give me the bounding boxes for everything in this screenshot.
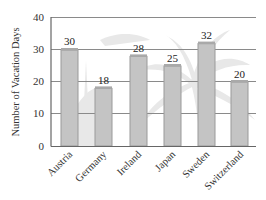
value-label-switzerland: 20 [234, 68, 246, 80]
x-tick-austria: Austria [45, 148, 75, 178]
x-tick-japan: Japan [153, 148, 178, 173]
x-tick-germany: Germany [73, 148, 109, 184]
bar-switzerland [231, 82, 248, 146]
bar-sweden [198, 44, 215, 146]
palm-tree-background-icon [60, 30, 255, 146]
value-label-austria: 30 [64, 35, 76, 47]
value-label-germany: 18 [98, 74, 110, 86]
value-label-japan: 25 [167, 52, 179, 64]
y-axis-label: Number of Vacation Days [10, 27, 21, 136]
bar-austria [61, 50, 78, 146]
bar-germany [95, 88, 112, 146]
value-label-sweden: 32 [201, 29, 212, 41]
y-tick-30: 30 [33, 43, 45, 55]
x-tick-sweden: Sweden [180, 148, 212, 180]
x-axis-ticks: Austria Germany Ireland Japan Sweden Swi… [45, 148, 246, 192]
y-axis-ticks: 40 30 20 10 0 [33, 11, 45, 152]
y-tick-0: 0 [39, 140, 45, 152]
y-tick-20: 20 [33, 75, 45, 87]
x-tick-ireland: Ireland [115, 148, 144, 177]
y-tick-10: 10 [33, 107, 45, 119]
y-tick-40: 40 [33, 11, 45, 23]
bar-chart: 40 30 20 10 0 Number of Vacation Days 30… [0, 0, 266, 200]
bar-japan [164, 66, 181, 146]
bar-ireland [130, 56, 147, 146]
value-label-ireland: 28 [133, 42, 145, 54]
